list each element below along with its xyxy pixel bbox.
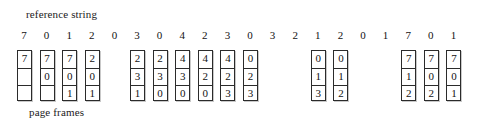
frame-column: 201	[85, 50, 100, 101]
frame-column: 012	[333, 50, 348, 101]
frame-cell: 2	[425, 85, 438, 102]
reference-digit: 4	[175, 28, 189, 42]
frame-cell: 3	[244, 85, 257, 102]
frame-cell-empty	[18, 85, 31, 102]
frame-cell: 0	[447, 68, 460, 85]
frame-cell: 2	[221, 68, 234, 85]
frame-column: 701	[62, 50, 77, 101]
frame-cell: 0	[63, 68, 76, 85]
frame-column: 712	[401, 50, 416, 101]
frame-cell: 1	[402, 68, 415, 85]
reference-digit: 1	[311, 28, 325, 42]
frame-cell-empty	[18, 68, 31, 85]
frame-cell: 4	[221, 51, 234, 68]
frame-column: 423	[220, 50, 235, 101]
frame-cell: 0	[244, 51, 257, 68]
reference-digit: 0	[153, 28, 167, 42]
frame-column: 70	[40, 50, 55, 101]
reference-digit: 0	[40, 28, 54, 42]
frame-cell: 2	[244, 68, 257, 85]
frame-cell-empty	[41, 85, 54, 102]
reference-digit: 2	[198, 28, 212, 42]
frame-cell: 0	[312, 51, 325, 68]
frame-cell: 1	[447, 85, 460, 102]
frame-cell: 7	[402, 51, 415, 68]
frame-cell: 2	[131, 51, 144, 68]
frame-cell: 7	[63, 51, 76, 68]
frame-cell: 4	[176, 51, 189, 68]
frame-column: 230	[153, 50, 168, 101]
page-frames-label: page frames	[29, 106, 84, 118]
reference-digit: 1	[446, 28, 460, 42]
reference-digit: 2	[288, 28, 302, 42]
reference-digit: 7	[17, 28, 31, 42]
page-replacement-figure: reference string 70120304230321201701 77…	[0, 0, 481, 128]
reference-digit: 1	[62, 28, 76, 42]
frame-cell: 7	[447, 51, 460, 68]
frame-cell: 1	[86, 85, 99, 102]
frame-cell: 0	[154, 85, 167, 102]
frame-cell: 7	[41, 51, 54, 68]
reference-digit: 0	[356, 28, 370, 42]
frame-cell: 1	[131, 85, 144, 102]
frame-cell: 0	[41, 68, 54, 85]
frame-cell: 0	[86, 68, 99, 85]
reference-digit: 0	[424, 28, 438, 42]
reference-digit: 1	[379, 28, 393, 42]
reference-digit: 0	[243, 28, 257, 42]
frame-cell: 7	[425, 51, 438, 68]
frame-cell: 3	[312, 85, 325, 102]
frame-column: 023	[243, 50, 258, 101]
reference-digit: 3	[130, 28, 144, 42]
frame-cell: 0	[199, 85, 212, 102]
frame-cell: 7	[18, 51, 31, 68]
reference-digit: 3	[266, 28, 280, 42]
frame-cell: 1	[63, 85, 76, 102]
frame-cell: 3	[154, 68, 167, 85]
frame-column: 7	[17, 50, 32, 101]
reference-string-label: reference string	[26, 8, 97, 20]
reference-digit: 2	[85, 28, 99, 42]
reference-digit: 0	[107, 28, 121, 42]
reference-digit: 7	[401, 28, 415, 42]
frame-column: 231	[130, 50, 145, 101]
frame-cell: 3	[176, 68, 189, 85]
frame-cell: 0	[176, 85, 189, 102]
frame-cell: 3	[131, 68, 144, 85]
frame-cell: 1	[312, 68, 325, 85]
frame-column: 701	[446, 50, 461, 101]
frame-cell: 2	[402, 85, 415, 102]
frame-cell: 2	[334, 85, 347, 102]
frame-cell: 4	[199, 51, 212, 68]
reference-digit: 2	[333, 28, 347, 42]
frame-cell: 2	[199, 68, 212, 85]
frame-cell: 2	[154, 51, 167, 68]
frame-column: 013	[311, 50, 326, 101]
frame-column: 702	[424, 50, 439, 101]
frame-cell: 2	[86, 51, 99, 68]
frame-column: 430	[175, 50, 190, 101]
frame-cell: 0	[425, 68, 438, 85]
reference-digit: 3	[220, 28, 234, 42]
frame-cell: 1	[334, 68, 347, 85]
frame-column: 420	[198, 50, 213, 101]
frame-cell: 3	[221, 85, 234, 102]
frame-cell: 0	[334, 51, 347, 68]
